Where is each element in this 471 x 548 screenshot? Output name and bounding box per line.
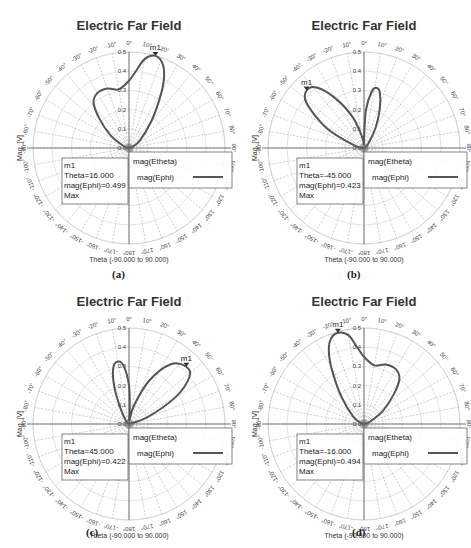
angle-tick-label: -30° [305, 52, 318, 63]
angle-tick-label: 0° [126, 316, 132, 322]
angle-tick-label: 170° [375, 523, 389, 531]
angle-tick-label: -130° [277, 483, 291, 498]
legend-entry-etheta: mag(Etheta) [133, 157, 177, 166]
angle-tick-label: 40° [426, 339, 437, 350]
radial-tick-label: 0.4 [118, 344, 127, 350]
angle-tick-label: 150° [174, 233, 188, 245]
radial-tick-label: 0.2 [118, 107, 127, 113]
marker-info-line: mag(Ephi)=0.494 [299, 457, 361, 466]
angle-tick-label: 20° [394, 321, 405, 330]
angle-tick-label: 140° [424, 222, 438, 235]
angle-tick-label: 0° [361, 316, 367, 322]
chart-svg-d: Electric Far Field0°10°20°30°40°50°60°70… [235, 276, 471, 548]
legend-entry-etheta: mag(Etheta) [368, 433, 412, 442]
angle-tick-label: -140° [289, 497, 304, 511]
angle-tick-label: -130° [42, 207, 56, 222]
angle-tick-label: 70° [223, 383, 232, 394]
angle-tick-label: 50° [439, 351, 450, 362]
angle-tick-label: 120° [214, 469, 226, 483]
angle-tick-label: -60° [33, 89, 44, 102]
angle-tick-label: 20° [159, 45, 170, 54]
angle-tick-label: 170° [140, 523, 154, 531]
center-marker [125, 144, 133, 152]
angle-tick-label: 10° [377, 317, 388, 325]
angle-tick-label: 160° [392, 517, 406, 527]
marker-label: m1 [150, 43, 162, 52]
center-marker [125, 420, 133, 428]
angle-tick-label: -20° [322, 45, 335, 55]
angle-tick-label: -50° [278, 74, 290, 87]
angle-tick-label: 140° [189, 222, 203, 235]
radial-tick-label: 0.5 [118, 49, 127, 55]
angle-tick-label: -110° [260, 452, 271, 468]
angle-tick-label: -160° [320, 241, 336, 252]
center-marker [360, 420, 368, 428]
angle-tick-label: 60° [215, 366, 225, 377]
angle-tick-label: -10° [105, 317, 118, 325]
y-axis-label: Mag. [V] [251, 135, 259, 161]
angle-tick-label: -70° [261, 381, 271, 394]
angle-tick-label: -70° [261, 105, 271, 118]
angle-tick-label: -70° [26, 381, 36, 394]
angle-tick-label: -50° [43, 350, 55, 363]
angle-tick-label: 70° [458, 383, 467, 394]
angle-tick-label: 20° [159, 321, 170, 330]
marker-info-line: mag(Ephi)=0.423 [299, 181, 361, 190]
marker-info-line: Max [64, 191, 79, 200]
marker-info-line: Theta=-45.000 [299, 171, 352, 180]
angle-tick-label: -170° [103, 523, 119, 532]
angle-tick-label: -110° [25, 176, 36, 192]
chart-svg-c: Electric Far Field0°10°20°30°40°50°60°70… [0, 276, 236, 548]
radial-tick-label: 0.5 [118, 325, 127, 331]
angle-tick-label: 160° [157, 241, 171, 251]
radial-tick-label: 0.3 [353, 363, 362, 369]
polar-chart-c: Electric Far Field0°10°20°30°40°50°60°70… [0, 276, 236, 548]
caption-d: (d) [352, 526, 365, 538]
angle-tick-label: -70° [26, 105, 36, 118]
marker-info-line: m1 [64, 161, 76, 170]
angle-tick-label: -80° [257, 399, 265, 412]
angle-tick-label: 130° [202, 485, 215, 499]
angle-tick-label: -80° [257, 123, 265, 136]
angle-tick-label: 30° [176, 53, 187, 63]
angle-tick-label: 60° [450, 90, 460, 101]
angle-tick-label: 150° [409, 509, 423, 521]
angle-tick-label: 180° [122, 250, 135, 256]
angle-tick-label: -50° [43, 74, 55, 87]
angle-tick-label: 20° [394, 45, 405, 54]
angle-tick-label: 50° [439, 75, 450, 86]
legend-entry-ephi: mag(Ephi) [137, 449, 174, 458]
y-axis-label: Mag. [V] [251, 411, 259, 437]
radial-tick-label: 0.2 [353, 383, 362, 389]
angle-tick-label: -80° [22, 399, 30, 412]
angle-tick-label: 80° [463, 125, 471, 136]
angle-tick-label: 60° [215, 90, 225, 101]
caption-c: (c) [86, 526, 98, 538]
angle-tick-label: 130° [437, 485, 450, 499]
marker-label: m1 [181, 354, 193, 363]
angle-tick-label: 30° [176, 329, 187, 339]
angle-tick-label: -120° [267, 192, 280, 208]
polar-chart-d: Electric Far Field0°10°20°30°40°50°60°70… [235, 276, 471, 548]
marker-info-line: mag(Ephi)=0.422 [64, 457, 126, 466]
marker-info-line: Theta=45.000 [64, 447, 114, 456]
angle-tick-label: -10° [105, 41, 118, 49]
angle-tick-label: -160° [85, 241, 101, 252]
angle-tick-label: 140° [424, 498, 438, 511]
angle-tick-label: 160° [392, 241, 406, 251]
angle-tick-label: 70° [458, 107, 467, 118]
angle-tick-label: -60° [268, 89, 279, 102]
marker-info-line: Max [64, 467, 79, 476]
legend-entry-ephi: mag(Ephi) [372, 173, 409, 182]
angle-tick-label: -120° [32, 468, 45, 484]
marker-info-line: m1 [64, 437, 76, 446]
angle-tick-label: 120° [214, 193, 226, 207]
angle-tick-label: -50° [278, 350, 290, 363]
y-axis-label: Mag. [V] [16, 135, 24, 161]
chart-svg-b: Electric Far Field0°10°20°30°40°50°60°70… [235, 0, 471, 272]
angle-tick-label: -160° [320, 517, 336, 528]
chart-title: Electric Far Field [77, 294, 182, 309]
angle-tick-label: -80° [22, 123, 30, 136]
series-ephi-curve [305, 87, 381, 148]
marker-info-line: Theta=16.000 [64, 171, 114, 180]
